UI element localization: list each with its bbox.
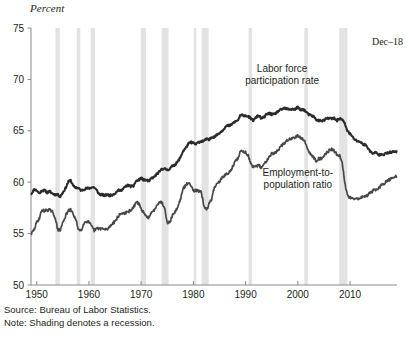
x-tick-label: 1990 xyxy=(234,289,257,300)
recession-band-0 xyxy=(55,28,59,285)
x-tick-label: 1970 xyxy=(130,289,153,300)
recession-band-6 xyxy=(202,28,209,285)
labor-force-participation-rate-label: Labor forceparticipation rate xyxy=(227,63,337,87)
x-tick-label: 1950 xyxy=(26,289,49,300)
recession-band-5 xyxy=(194,28,197,285)
shading-note: Note: Shading denotes a recession. xyxy=(4,316,155,329)
chart-footnotes: Source: Bureau of Labor Statistics. Note… xyxy=(4,303,155,329)
y-tick-label: 65 xyxy=(13,125,25,136)
x-tick-label: 1960 xyxy=(78,289,101,300)
recession-band-2 xyxy=(91,28,95,285)
end-date-annotation: Dec–18 xyxy=(372,36,403,47)
y-tick-label: 50 xyxy=(13,280,25,291)
x-tick-label: 2000 xyxy=(287,289,310,300)
recession-band-4 xyxy=(162,28,169,285)
x-tick-label: 2010 xyxy=(339,289,362,300)
recession-band-3 xyxy=(141,28,146,285)
y-tick-label: 60 xyxy=(13,177,25,188)
source-note: Source: Bureau of Labor Statistics. xyxy=(4,303,155,316)
y-tick-label: 55 xyxy=(13,228,25,239)
chart-figure: Percent Dec–18 Labor forceparticipation … xyxy=(0,0,409,342)
y-tick-label: 75 xyxy=(13,23,25,34)
y-axis-title: Percent xyxy=(30,2,65,14)
x-tick-label: 1980 xyxy=(182,289,205,300)
y-tick-label: 70 xyxy=(13,74,25,85)
employment-to-population-ratio-label: Employment-to-population ratio xyxy=(243,167,353,191)
recession-band-1 xyxy=(77,28,80,285)
